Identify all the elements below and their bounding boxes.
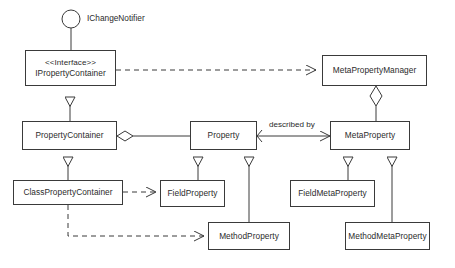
aggregation-propertycontainer-property — [117, 131, 190, 141]
lollipop-interface-label: IChangeNotifier — [87, 13, 145, 23]
class-name-ipropertycontainer: IPropertyContainer — [35, 68, 106, 78]
class-box-ipropertycontainer[interactable]: <<Interface>> IPropertyContainer — [25, 50, 116, 86]
class-name-methodproperty: MethodProperty — [219, 231, 279, 241]
class-box-classpropertycontainer[interactable]: ClassPropertyContainer — [13, 180, 123, 205]
class-stereotype-ipropertycontainer: <<Interface>> — [45, 58, 96, 68]
lollipop-interface-ichangenotifier — [62, 10, 80, 50]
class-box-methodmetaproperty[interactable]: MethodMetaProperty — [345, 222, 430, 250]
class-box-methodproperty[interactable]: MethodProperty — [208, 222, 290, 250]
class-name-fieldproperty: FieldProperty — [168, 188, 218, 198]
uml-class-diagram: MetaPropertyManager --> MetaProperty, wi… — [0, 0, 455, 268]
class-box-fieldmetaproperty[interactable]: FieldMetaProperty — [290, 180, 375, 207]
aggregation-metapropertymanager-metaproperty — [370, 86, 382, 122]
class-name-methodmetaproperty: MethodMetaProperty — [348, 231, 426, 241]
class-box-metapropertymanager[interactable]: MetaPropertyManager — [322, 55, 427, 86]
class-name-propertycontainer: PropertyContainer — [35, 130, 103, 140]
class-name-metaproperty: MetaProperty — [345, 130, 395, 140]
association-property-metaproperty — [252, 130, 330, 142]
class-box-property[interactable]: Property — [190, 121, 257, 150]
class-name-metapropertymanager: MetaPropertyManager — [333, 65, 417, 75]
class-box-propertycontainer[interactable]: PropertyContainer — [22, 121, 117, 150]
class-box-fieldproperty[interactable]: FieldProperty — [160, 180, 225, 207]
class-name-fieldmetaproperty: FieldMetaProperty — [298, 188, 367, 198]
class-name-classpropertycontainer: ClassPropertyContainer — [23, 187, 112, 197]
class-box-metaproperty[interactable]: MetaProperty — [330, 121, 410, 150]
dependency-classpropertycontainer-methodproperty — [68, 205, 204, 236]
association-label-described-by: described by — [268, 120, 316, 129]
class-name-property: Property — [208, 130, 240, 140]
